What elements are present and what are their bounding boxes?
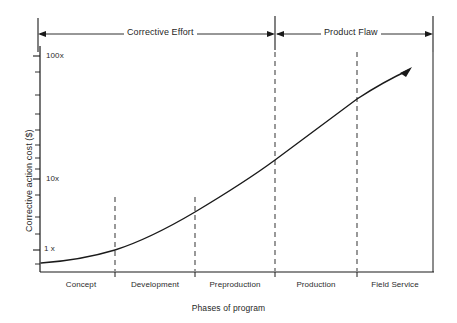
x-category-label-development: Development bbox=[117, 280, 193, 289]
y-tick-label-100x: 100x bbox=[46, 51, 64, 60]
cost-curve-line bbox=[41, 70, 409, 263]
cost-growth-chart: Corrective Effort Product Flaw 100x 10x … bbox=[0, 0, 457, 323]
y-axis-title: Corrective action cost ($) bbox=[24, 129, 34, 232]
axis-frame bbox=[40, 46, 434, 272]
corrective-effort-arrowhead-right bbox=[267, 31, 275, 37]
y-tick-label-10x: 10x bbox=[46, 174, 59, 183]
x-axis-title: Phases of program bbox=[0, 303, 457, 313]
x-category-label-preproduction: Preproduction bbox=[196, 280, 274, 289]
y-axis-ticks bbox=[33, 56, 40, 264]
x-category-label-field-service: Field Service bbox=[358, 280, 432, 289]
band-label-product-flaw: Product Flaw bbox=[321, 27, 381, 37]
cost-curve-arrowhead bbox=[400, 67, 412, 77]
product-flaw-arrowhead-right bbox=[425, 31, 433, 37]
x-axis-ticks bbox=[115, 272, 357, 277]
y-tick-label-1x: 1 x bbox=[44, 244, 55, 253]
cost-curve-group bbox=[41, 67, 412, 263]
chart-canvas bbox=[0, 0, 457, 323]
x-category-label-concept: Concept bbox=[48, 280, 114, 289]
band-label-corrective-effort: Corrective Effort bbox=[124, 27, 197, 37]
product-flaw-arrowhead-left bbox=[276, 31, 284, 37]
x-category-label-production: Production bbox=[277, 280, 355, 289]
phase-divider-group bbox=[115, 52, 357, 271]
corrective-effort-arrowhead-left bbox=[38, 31, 46, 37]
